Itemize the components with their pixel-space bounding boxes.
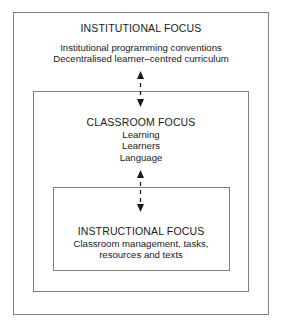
classroom-to-instructional-arrow <box>132 170 149 212</box>
instructional-focus-line-1: Classroom management, tasks, <box>0 238 282 249</box>
classroom-focus-line-1: Learning <box>0 129 282 140</box>
classroom-focus-heading: CLASSROOM FOCUS <box>0 116 282 128</box>
institutional-focus-heading: INSTITUTIONAL FOCUS <box>0 22 282 34</box>
diagram-canvas: INSTITUTIONAL FOCUS Institutional progra… <box>0 0 282 326</box>
institutional-focus-line-2: Decentralised learner–centred curriculum <box>0 53 282 64</box>
institutional-focus-line-1: Institutional programming conventions <box>0 42 282 53</box>
institutional-focus-details: Institutional programming conventions De… <box>0 42 282 65</box>
classroom-focus-line-3: Language <box>0 152 282 163</box>
instructional-focus-line-2: resources and texts <box>0 249 282 260</box>
institutional-to-classroom-arrow <box>132 71 149 107</box>
instructional-focus-details: Classroom management, tasks, resources a… <box>0 238 282 261</box>
classroom-focus-line-2: Learners <box>0 140 282 151</box>
instructional-focus-heading: INSTRUCTIONAL FOCUS <box>0 225 282 237</box>
classroom-focus-details: Learning Learners Language <box>0 129 282 163</box>
